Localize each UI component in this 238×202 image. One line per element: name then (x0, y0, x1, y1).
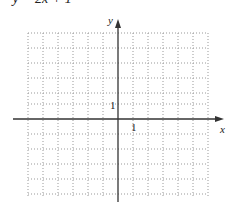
y-axis-label: y (107, 14, 113, 26)
y-axis-arrow-icon (115, 19, 121, 28)
x-tick-label: 1 (131, 121, 137, 133)
axes (13, 24, 220, 202)
x-axis-arrow-icon (215, 116, 224, 122)
y-tick-label: 1 (110, 99, 116, 111)
x-axis-label: x (219, 123, 225, 135)
coordinate-grid: y x 1 1 (0, 0, 238, 202)
